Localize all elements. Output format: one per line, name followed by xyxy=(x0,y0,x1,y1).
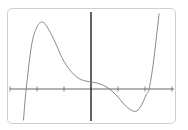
function-plot xyxy=(0,0,188,130)
